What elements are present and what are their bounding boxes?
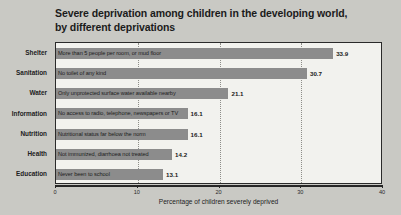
x-tick-mark	[219, 185, 220, 188]
bar-row: Nutritional status far below the norm16.…	[56, 124, 383, 144]
category-label-education: Education	[16, 169, 47, 178]
bar-value-label: 21.1	[231, 89, 243, 98]
chart-title-line-1: Severe deprivation among children in the…	[55, 7, 385, 21]
category-label-nutrition: Nutrition	[20, 129, 47, 138]
bar-description-label: Nutritional status far below the norm	[58, 130, 146, 139]
category-label-shelter: Shelter	[25, 48, 47, 57]
bar-value-label: 14.2	[175, 150, 187, 159]
x-tick-label: 10	[134, 189, 140, 195]
bar-description-label: More than 5 people per room, or mud floo…	[58, 49, 161, 58]
category-label-information: Information	[12, 109, 47, 118]
x-tick-label: 30	[297, 189, 303, 195]
bar-description-label: Never been to school	[58, 170, 110, 179]
bar-value-label: 13.1	[166, 170, 178, 179]
bar-row: No access to radio, telephone, newspaper…	[56, 104, 383, 124]
chart-title: Severe deprivation among children in the…	[55, 7, 385, 34]
x-tick-mark	[300, 185, 301, 188]
x-tick-mark	[137, 185, 138, 188]
chart-title-line-2: by different deprivations	[55, 21, 385, 35]
x-tick-label: 20	[215, 189, 221, 195]
plot-area: More than 5 people per room, or mud floo…	[55, 42, 382, 184]
category-label-health: Health	[27, 149, 47, 158]
chart-figure: Severe deprivation among children in the…	[0, 0, 401, 215]
bar-description-label: No toilet of any kind	[58, 69, 106, 78]
y-axis-category-labels: ShelterSanitationWaterInformationNutriti…	[0, 42, 51, 184]
bar-series: More than 5 people per room, or mud floo…	[56, 43, 383, 185]
x-tick-label: 40	[379, 189, 385, 195]
x-tick-mark	[382, 185, 383, 188]
bar-row: No toilet of any kind30.7	[56, 63, 383, 83]
bar-value-label: 16.1	[191, 130, 203, 139]
x-axis-title: Percentage of children severely deprived	[55, 198, 382, 205]
x-tick-mark	[55, 185, 56, 188]
bar-row: Not immunized, diarrhoea not treated14.2	[56, 144, 383, 164]
bar-value-label: 30.7	[310, 69, 322, 78]
bar-description-label: No access to radio, telephone, newspaper…	[58, 109, 178, 118]
bar-row: Never been to school13.1	[56, 165, 383, 185]
bar-description-label: Not immunized, diarrhoea not treated	[58, 150, 149, 159]
category-label-sanitation: Sanitation	[16, 68, 47, 77]
x-tick-label: 0	[53, 189, 56, 195]
bar-value-label: 33.9	[336, 49, 348, 58]
bar-row: Only unprotected surface water available…	[56, 84, 383, 104]
bar-value-label: 16.1	[191, 109, 203, 118]
bar-row: More than 5 people per room, or mud floo…	[56, 43, 383, 63]
category-label-water: Water	[29, 88, 47, 97]
bar-description-label: Only unprotected surface water available…	[58, 89, 176, 98]
